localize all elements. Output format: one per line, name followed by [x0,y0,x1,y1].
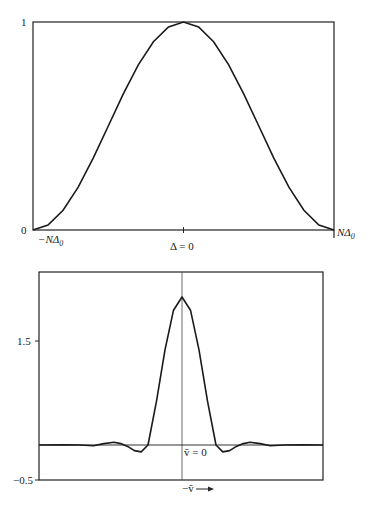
chart1-frame [33,22,334,230]
chart2-frame [39,272,323,480]
chart1-xtick-left: −NΔ0 [38,233,63,248]
chart-response: 1.5 −0.5 v̄ = 0 −v̄ [13,272,323,494]
chart1-ytick-0: 0 [21,224,27,236]
chart1-curve [33,22,334,230]
chart2-ytick-neg0.5: −0.5 [13,474,33,486]
chart2-vbar-zero-label: v̄ = 0 [184,446,207,458]
chart-window: 1 0 −NΔ0 Δ = 0 NΔ0 [21,16,355,252]
chart1-ytick-1: 1 [21,16,27,28]
figure: 1 0 −NΔ0 Δ = 0 NΔ0 1.5 −0.5 v̄ = 0 −v̄ [0,0,374,511]
chart1-xtick-right: NΔ0 [336,226,355,241]
chart2-xlabel: −v̄ [182,482,194,494]
chart2-ytick-1.5: 1.5 [17,335,31,347]
chart2-curve [39,297,323,452]
arrow-right-icon [208,487,214,492]
chart1-xtick-center: Δ = 0 [170,240,194,252]
